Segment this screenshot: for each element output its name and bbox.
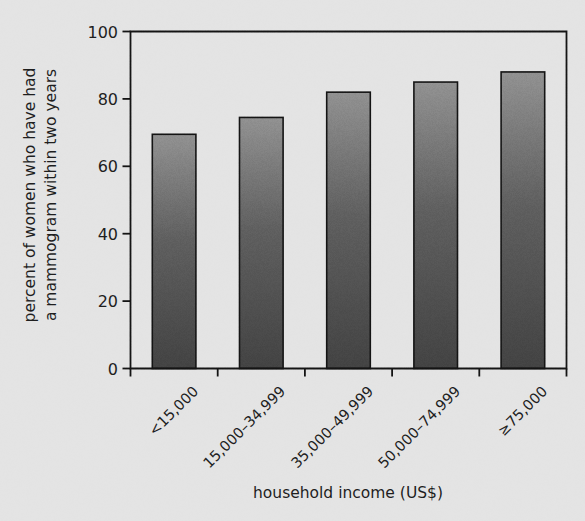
- x-axis-title: household income (US$): [130, 484, 566, 502]
- plot-area: [0, 0, 585, 521]
- bar: [152, 134, 196, 368]
- bar-series: [152, 72, 544, 369]
- chart-figure: percent of women who have had a mammogra…: [0, 0, 585, 521]
- bar: [501, 72, 545, 369]
- bar: [414, 82, 458, 368]
- bar: [327, 92, 371, 368]
- bar: [240, 117, 284, 368]
